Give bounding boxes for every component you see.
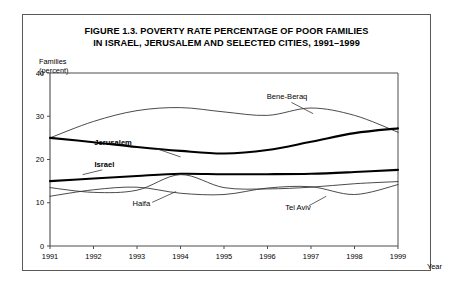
leader-line-israel <box>83 170 103 175</box>
svg-text:1996: 1996 <box>259 252 275 261</box>
svg-text:20: 20 <box>36 155 44 164</box>
svg-text:1998: 1998 <box>346 252 362 261</box>
svg-text:1992: 1992 <box>85 252 101 261</box>
svg-text:1993: 1993 <box>129 252 145 261</box>
svg-text:1991: 1991 <box>42 252 58 261</box>
figure-frame: FIGURE 1.3. POVERTY RATE PERCENTAGE OF P… <box>22 14 431 271</box>
series-label-tel-aviv: Tel Aviv <box>285 203 311 212</box>
svg-text:1994: 1994 <box>172 252 188 261</box>
svg-text:1997: 1997 <box>303 252 319 261</box>
line-chart-plot: 010203040 199119921993199419951996199719… <box>23 15 432 272</box>
leader-line-tel-aviv <box>309 196 326 206</box>
leader-line-haifa <box>152 192 176 203</box>
svg-text:1999: 1999 <box>390 252 406 261</box>
series-label-israel: Israel <box>94 160 114 169</box>
series-line-israel <box>50 170 398 181</box>
series-leader-lines <box>83 102 327 205</box>
series-line-bene-beraq <box>50 108 398 138</box>
series-label-jerusalem: Jerusalem <box>94 138 132 147</box>
svg-text:40: 40 <box>36 69 44 78</box>
x-axis-tick-labels: 199119921993199419951996199719981999 <box>42 246 406 261</box>
svg-text:0: 0 <box>40 242 44 251</box>
y-axis-tick-labels: 010203040 <box>36 69 50 251</box>
svg-text:10: 10 <box>36 198 44 207</box>
series-label-bene-beraq: Bene-Beraq <box>267 92 308 101</box>
series-label-haifa: Haifa <box>132 199 151 208</box>
data-series-lines <box>50 108 398 197</box>
svg-text:1995: 1995 <box>216 252 232 261</box>
svg-text:30: 30 <box>36 112 44 121</box>
series-line-tel-aviv <box>50 185 398 197</box>
